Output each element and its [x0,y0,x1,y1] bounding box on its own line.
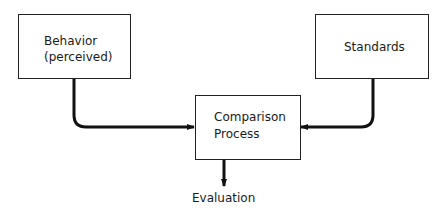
comparison-process-node: Comparison Process [195,95,301,160]
behavior-label-line1: Behavior [44,34,97,49]
arrow-standards-to-comparison [301,78,373,127]
evaluation-label: Evaluation [192,191,255,206]
behavior-label-line2: (perceived) [44,50,112,65]
arrow-behavior-to-comparison [74,78,194,127]
comparison-label-line1: Comparison [214,110,286,125]
comparison-label-line2: Process [214,127,260,142]
behavior-node: Behavior (perceived) [18,14,131,79]
standards-node: Standards [315,14,429,79]
standards-label: Standards [344,40,405,55]
